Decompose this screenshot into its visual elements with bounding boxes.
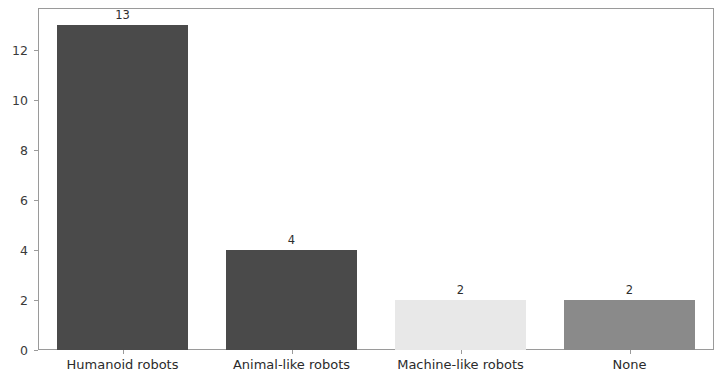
y-axis-tick-label: 6 — [20, 193, 34, 208]
bar-value-label: 13 — [57, 8, 189, 22]
x-axis-tick-label: None — [613, 357, 647, 372]
y-axis-tick-label: 0 — [20, 343, 34, 358]
bar-rect — [564, 300, 696, 350]
x-axis-tick-label: Humanoid robots — [67, 357, 179, 372]
bars-layer: 13422 — [38, 8, 714, 350]
bar-rect — [395, 300, 527, 350]
y-axis-tick: 8 — [20, 142, 38, 158]
y-axis-tick-label: 8 — [20, 143, 34, 158]
bar-rect — [226, 250, 358, 350]
x-axis-tick-mark — [461, 350, 462, 354]
bar: 2 — [395, 8, 527, 350]
bar: 4 — [226, 8, 358, 350]
x-axis-tick-mark — [292, 350, 293, 354]
y-axis: 024681012 — [0, 0, 38, 379]
x-axis-tick-mark — [123, 350, 124, 354]
y-axis-tick: 12 — [12, 42, 38, 58]
x-axis-tick-mark — [630, 350, 631, 354]
x-axis: Humanoid robotsAnimal-like robotsMachine… — [38, 350, 714, 379]
bar-rect — [57, 25, 189, 350]
y-axis-tick-label: 2 — [20, 293, 34, 308]
y-axis-tick: 4 — [20, 242, 38, 258]
y-axis-tick: 10 — [12, 92, 38, 108]
y-axis-tick-label: 4 — [20, 243, 34, 258]
x-axis-tick-label: Animal-like robots — [233, 357, 350, 372]
y-axis-tick-label: 12 — [12, 43, 34, 58]
bar: 13 — [57, 8, 189, 350]
x-axis-tick-label: Machine-like robots — [397, 357, 524, 372]
bar-value-label: 2 — [395, 283, 527, 297]
y-axis-tick: 0 — [20, 342, 38, 358]
y-axis-tick: 6 — [20, 192, 38, 208]
bar-value-label: 4 — [226, 233, 358, 247]
y-axis-tick: 2 — [20, 292, 38, 308]
y-axis-tick-label: 10 — [12, 93, 34, 108]
bar: 2 — [564, 8, 696, 350]
bar-value-label: 2 — [564, 283, 696, 297]
bar-chart: 024681012 13422 Humanoid robotsAnimal-li… — [0, 0, 721, 379]
